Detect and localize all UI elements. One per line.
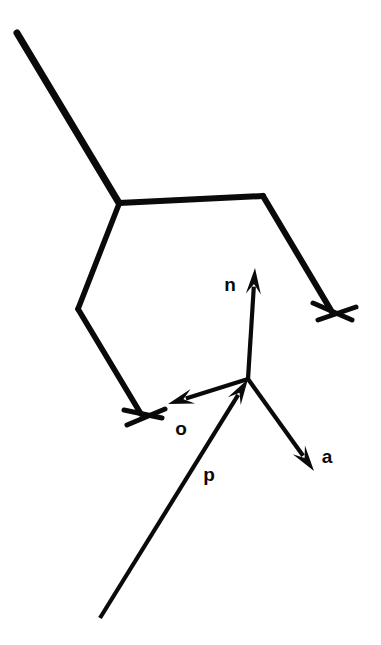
robot-manipulator-diagram: noap — [0, 0, 381, 645]
label-o: o — [175, 418, 187, 439]
label-n: n — [224, 274, 236, 295]
diagram-canvas: noap — [0, 0, 381, 645]
label-p: p — [203, 464, 215, 485]
label-a: a — [322, 446, 333, 467]
